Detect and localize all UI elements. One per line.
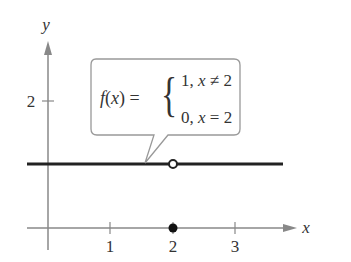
piecewise-function-graph: 1 2 3 2 x y f(x) = { 1, x ≠ 2 0, x = 2 (0, 0, 351, 262)
callout-case-2: 0, x = 2 (181, 108, 232, 127)
y-axis-arrow-icon (44, 41, 52, 55)
open-point (169, 160, 177, 168)
x-axis-arrow-icon (283, 224, 297, 232)
x-tick-label-1: 1 (106, 237, 115, 256)
y-axis-label: y (40, 15, 50, 34)
x-tick-label-2: 2 (169, 237, 178, 256)
callout-lhs: f(x) = (100, 88, 140, 109)
callout-case-1: 1, x ≠ 2 (181, 71, 232, 90)
brace-icon: { (161, 68, 177, 121)
y-tick-label-2: 2 (27, 92, 36, 111)
closed-point (169, 224, 178, 233)
x-tick-label-3: 3 (231, 237, 240, 256)
x-axis-label: x (301, 218, 310, 237)
